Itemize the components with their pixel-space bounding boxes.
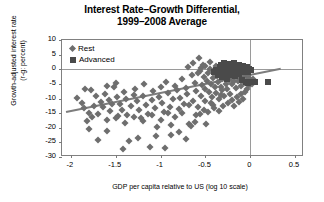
- data-point-rest: [121, 120, 128, 127]
- data-point-rest: [119, 145, 126, 152]
- data-point-rest: [120, 89, 127, 96]
- data-point-rest: [134, 98, 141, 105]
- x-tick-label: -0.5: [189, 160, 219, 169]
- data-point-advanced: [252, 79, 258, 85]
- data-point-rest: [103, 127, 110, 134]
- data-point-rest: [168, 131, 175, 138]
- data-point-rest: [153, 124, 160, 131]
- y-axis-label-line2: (r-g: percent): [18, 0, 27, 131]
- data-point-rest: [87, 87, 94, 94]
- y-tick-mark: [59, 142, 62, 143]
- y-tick-mark: [59, 157, 62, 158]
- y-tick-label: 0: [30, 63, 56, 72]
- chart-container: Interest Rate–Growth Differential, 1999–…: [0, 0, 324, 202]
- data-point-rest: [91, 102, 98, 109]
- y-tick-mark: [59, 84, 62, 85]
- data-point-rest: [141, 80, 148, 87]
- data-point-rest: [170, 95, 177, 102]
- data-point-rest: [240, 95, 247, 102]
- chart-title: Interest Rate–Growth Differential, 1999–…: [0, 4, 324, 28]
- data-point-advanced: [248, 67, 254, 73]
- y-axis-label: Growth-adjusted interest rate (r-g: perc…: [10, 0, 27, 131]
- x-tick-mark: [295, 155, 296, 158]
- data-point-rest: [139, 92, 146, 99]
- data-point-rest: [143, 101, 150, 108]
- data-point-rest: [148, 96, 155, 103]
- data-point-advanced: [219, 65, 225, 71]
- y-tick-label: -20: [30, 122, 56, 131]
- legend-item-advanced: Advanced: [70, 54, 115, 65]
- data-point-rest: [148, 112, 155, 119]
- y-tick-mark: [59, 40, 62, 41]
- y-tick-label: 5: [30, 49, 56, 58]
- data-point-rest: [164, 90, 171, 97]
- y-tick-label: -10: [30, 93, 56, 102]
- data-point-rest: [179, 109, 186, 116]
- square-marker-icon: [70, 57, 76, 63]
- y-axis-label-line1: Growth-adjusted interest rate: [10, 15, 17, 105]
- data-point-rest: [130, 113, 137, 120]
- chart-legend: Rest Advanced: [70, 43, 115, 65]
- data-point-rest: [85, 125, 92, 132]
- data-point-rest: [175, 129, 182, 136]
- data-point-rest: [100, 104, 107, 111]
- data-point-rest: [159, 99, 166, 106]
- data-point-rest: [107, 108, 114, 115]
- data-point-rest: [168, 122, 175, 129]
- data-point-rest: [139, 118, 146, 125]
- data-point-rest: [184, 91, 191, 98]
- data-point-rest: [122, 96, 129, 103]
- y-tick-mark: [59, 128, 62, 129]
- x-tick-mark: [71, 155, 72, 158]
- x-tick-label: 0.5: [279, 160, 309, 169]
- x-tick-label: -1: [145, 160, 175, 169]
- y-tick-mark: [59, 99, 62, 100]
- data-point-rest: [179, 76, 186, 83]
- data-point-rest: [126, 137, 133, 144]
- data-point-rest: [157, 83, 164, 90]
- data-point-rest: [162, 144, 169, 151]
- data-point-rest: [164, 110, 171, 117]
- data-point-rest: [103, 116, 110, 123]
- data-point-rest: [94, 136, 101, 143]
- data-point-rest: [157, 117, 164, 124]
- legend-label-advanced: Advanced: [79, 54, 115, 65]
- y-tick-label: 10: [30, 34, 56, 43]
- y-tick-label: -15: [30, 107, 56, 116]
- data-point-rest: [103, 82, 110, 89]
- data-point-rest: [152, 104, 159, 111]
- data-point-rest: [136, 107, 143, 114]
- data-point-rest: [146, 144, 153, 151]
- data-point-rest: [153, 132, 160, 139]
- x-tick-mark: [116, 155, 117, 158]
- data-point-rest: [112, 115, 119, 122]
- plot-area: Rest Advanced: [61, 39, 303, 156]
- x-tick-label: 0: [234, 160, 264, 169]
- legend-item-rest: Rest: [70, 43, 115, 54]
- legend-label-rest: Rest: [78, 43, 94, 54]
- chart-title-line1: Interest Rate–Growth Differential,: [84, 4, 240, 15]
- y-tick-label: -5: [30, 78, 56, 87]
- x-tick-mark: [161, 155, 162, 158]
- data-point-rest: [162, 78, 169, 85]
- x-tick-mark: [205, 155, 206, 158]
- data-point-rest: [182, 136, 189, 143]
- x-tick-mark: [250, 155, 251, 158]
- data-point-rest: [127, 103, 134, 110]
- x-tick-label: -2: [55, 160, 85, 169]
- data-point-rest: [93, 93, 100, 100]
- diamond-marker-icon: [69, 45, 76, 52]
- data-point-rest: [171, 114, 178, 121]
- data-point-rest: [196, 55, 203, 62]
- y-tick-mark: [59, 55, 62, 56]
- zero-vertical-line: [250, 40, 251, 155]
- x-tick-label: -1.5: [100, 160, 130, 169]
- y-tick-mark: [59, 69, 62, 70]
- data-point-advanced: [265, 79, 271, 85]
- chart-title-line2: 1999–2008 Average: [0, 16, 324, 28]
- y-tick-label: -25: [30, 136, 56, 145]
- y-tick-mark: [59, 113, 62, 114]
- x-axis-label: GDP per capita relative to US (log 10 sc…: [40, 183, 320, 190]
- data-point-rest: [203, 120, 210, 127]
- y-tick-label: -30: [30, 151, 56, 160]
